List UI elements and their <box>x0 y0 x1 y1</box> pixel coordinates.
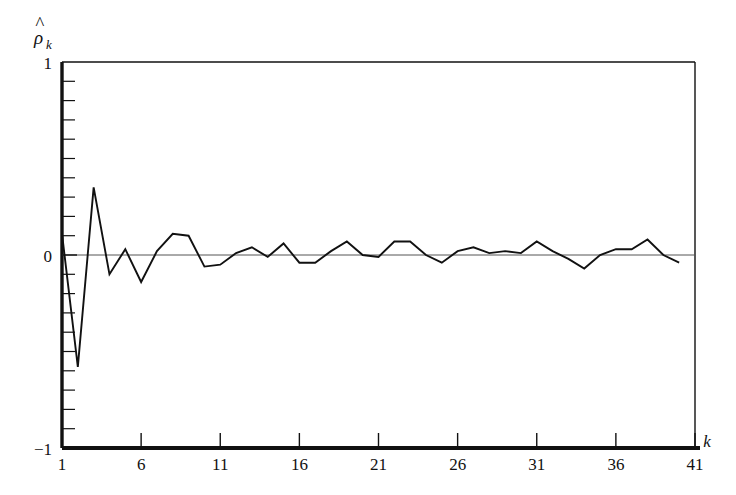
x-tick-label-11: 11 <box>212 455 228 474</box>
x-tick-label-36: 36 <box>607 455 624 474</box>
x-tick-label-16: 16 <box>291 455 308 474</box>
x-tick-label-31: 31 <box>528 455 545 474</box>
x-axis-title: k <box>703 432 711 451</box>
x-tick-label-1: 1 <box>58 455 67 474</box>
acf-chart-svg: 1 0 −1 ρ ^ k 1611162126313641 k <box>0 0 736 495</box>
y-tick-label-0: 0 <box>44 247 53 266</box>
y-axis-title-subscript: k <box>46 37 52 52</box>
x-tick-label-21: 21 <box>370 455 387 474</box>
acf-figure: 1 0 −1 ρ ^ k 1611162126313641 k <box>0 0 736 495</box>
figure-background <box>0 0 736 495</box>
y-tick-label-neg1: −1 <box>34 440 52 459</box>
y-tick-label-1: 1 <box>44 54 53 73</box>
x-tick-label-6: 6 <box>137 455 146 474</box>
x-tick-label-41: 41 <box>687 455 704 474</box>
x-tick-label-26: 26 <box>449 455 466 474</box>
